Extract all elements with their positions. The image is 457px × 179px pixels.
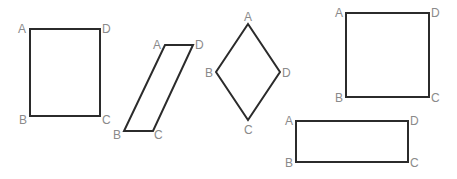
- square-outline: [346, 13, 429, 97]
- rectangle-2-outline: [296, 121, 408, 162]
- rhombus-label-c: C: [244, 123, 253, 137]
- square-label-a: A: [335, 6, 343, 20]
- rhombus-label-b: B: [205, 66, 213, 80]
- rectangle-2-label-a: A: [285, 114, 293, 128]
- rhombus-label-a: A: [244, 10, 252, 24]
- rhombus: A B D C: [205, 10, 291, 137]
- rectangle-1: A D B C: [18, 22, 111, 127]
- rhombus-outline: [216, 24, 280, 120]
- rectangle-1-label-d: D: [102, 22, 111, 36]
- quadrilaterals-diagram: A D B C A D B C A B D C A D B C A D B C: [0, 0, 457, 179]
- parallelogram-label-c: C: [154, 128, 163, 142]
- parallelogram: A D B C: [113, 38, 204, 142]
- square-label-b: B: [335, 91, 343, 105]
- rectangle-2: A D B C: [285, 114, 419, 170]
- rectangle-1-outline: [30, 29, 100, 116]
- rectangle-2-label-d: D: [410, 114, 419, 128]
- rectangle-1-label-b: B: [19, 113, 27, 127]
- square-label-d: D: [431, 6, 440, 20]
- parallelogram-label-d: D: [195, 38, 204, 52]
- rectangle-1-label-a: A: [18, 22, 26, 36]
- square-label-c: C: [431, 91, 440, 105]
- rhombus-label-d: D: [282, 66, 291, 80]
- rectangle-2-label-c: C: [410, 156, 419, 170]
- square: A D B C: [335, 6, 440, 105]
- parallelogram-outline: [124, 45, 193, 131]
- rectangle-2-label-b: B: [285, 156, 293, 170]
- rectangle-1-label-c: C: [102, 113, 111, 127]
- parallelogram-label-b: B: [113, 128, 121, 142]
- parallelogram-label-a: A: [153, 38, 161, 52]
